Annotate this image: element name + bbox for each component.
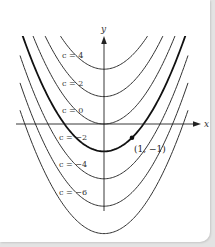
curve-label: c = −4 bbox=[59, 160, 87, 169]
point-label: (1, −1) bbox=[134, 144, 166, 154]
curve-label: c = −6 bbox=[59, 188, 87, 197]
curve-label: c = 4 bbox=[62, 51, 83, 60]
y-axis-arrow-icon bbox=[101, 36, 107, 44]
curve-label: c = 2 bbox=[62, 79, 83, 88]
curve-label: c = −2 bbox=[59, 133, 87, 142]
y-axis-label: y bbox=[100, 24, 107, 34]
point-marker bbox=[130, 135, 135, 140]
x-axis-label: x bbox=[204, 119, 209, 129]
parabola-family-diagram: x y c = 4c = 2c = 0c = −2c = −4c = −6 (1… bbox=[0, 0, 215, 247]
x-axis-arrow-icon bbox=[193, 121, 201, 127]
curve-label: c = 0 bbox=[62, 106, 83, 115]
